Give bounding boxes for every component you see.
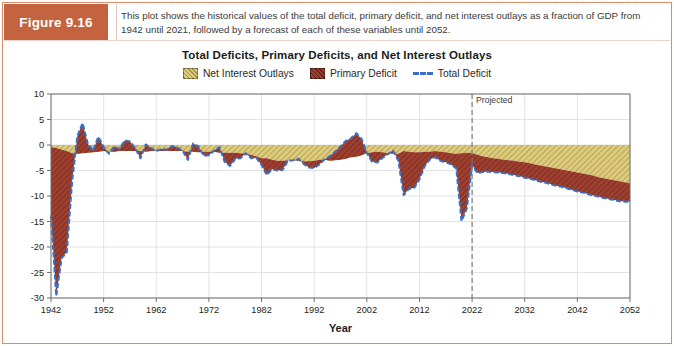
- legend-label-total-deficit: Total Deficit: [438, 68, 491, 79]
- x-tick-label: 2052: [620, 305, 640, 315]
- axis-labels: 1050-5-10-15-20-25-301942195219621972198…: [31, 89, 641, 334]
- figure-caption-text: This plot shows the historical values of…: [116, 4, 670, 40]
- area-bands: [51, 123, 630, 296]
- y-tick-label: -25: [31, 268, 44, 278]
- net-interest-swatch-icon: [183, 68, 198, 79]
- total-deficit-line-icon: [413, 72, 433, 75]
- x-tick-label: 2002: [357, 305, 377, 315]
- deficit-area-chart: Projected 1050-5-10-15-20-25-30194219521…: [4, 86, 670, 342]
- x-tick-label: 2012: [409, 305, 429, 315]
- x-tick-label: 1942: [41, 305, 61, 315]
- caption-separator-rule: [4, 40, 670, 41]
- figure-container: Figure 9.16 This plot shows the historic…: [0, 0, 674, 346]
- x-tick-label: 1992: [304, 305, 324, 315]
- x-tick-label: 2042: [567, 305, 587, 315]
- legend-label-net-interest-outlays: Net Interest Outlays: [203, 68, 294, 79]
- x-tick-label: 1982: [251, 305, 271, 315]
- y-tick-label: -20: [31, 242, 44, 252]
- y-tick-label: 5: [39, 115, 44, 125]
- legend-item-primary-deficit: Primary Deficit: [310, 68, 397, 79]
- caption-divider: [108, 4, 116, 40]
- chart-title: Total Deficits, Primary Deficits, and Ne…: [4, 49, 670, 61]
- legend-item-total-deficit: Total Deficit: [413, 68, 491, 79]
- x-tick-label: 2022: [462, 305, 482, 315]
- axes: [47, 94, 630, 302]
- gridlines: [51, 94, 630, 298]
- primary-deficit-swatch-icon: [310, 68, 325, 79]
- plot-area: Projected 1050-5-10-15-20-25-30194219521…: [4, 86, 670, 342]
- chart-legend: Net Interest Outlays Primary Deficit Tot…: [4, 68, 670, 79]
- y-tick-label: -30: [31, 293, 44, 303]
- y-tick-label: 10: [34, 89, 44, 99]
- figure-number-tag: Figure 9.16: [4, 4, 108, 40]
- projected-label: Projected: [476, 95, 513, 105]
- x-tick-label: 1962: [146, 305, 166, 315]
- x-tick-label: 1972: [199, 305, 219, 315]
- legend-label-primary-deficit: Primary Deficit: [330, 68, 397, 79]
- x-tick-label: 1952: [93, 305, 113, 315]
- figure-caption-band: Figure 9.16 This plot shows the historic…: [4, 4, 670, 40]
- chart-container: Total Deficits, Primary Deficits, and Ne…: [4, 42, 670, 342]
- x-axis-title: Year: [329, 322, 353, 334]
- y-tick-label: -5: [36, 166, 44, 176]
- x-tick-label: 2032: [515, 305, 535, 315]
- y-tick-label: 0: [39, 140, 44, 150]
- y-tick-label: -10: [31, 191, 44, 201]
- legend-item-net-interest-outlays: Net Interest Outlays: [183, 68, 294, 79]
- y-tick-label: -15: [31, 217, 44, 227]
